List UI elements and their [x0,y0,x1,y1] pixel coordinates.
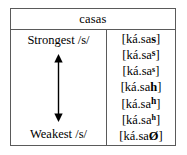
form-coda: s [152,45,156,61]
double-headed-vertical-arrow-icon [11,52,106,124]
form-coda: h [151,110,155,126]
form-coda: h [151,93,156,109]
weakest-label: Weakest /s/ [30,128,87,142]
form-coda: s [152,62,155,78]
form-prefix: [ká.sa [121,79,151,95]
form-suffix: ] [157,79,161,95]
form-suffix: ] [156,112,160,128]
form-suffix: ] [159,128,163,144]
form-prefix: [ká.sa [122,31,152,47]
form-prefix: [ká.sa [122,47,152,63]
phonetic-forms-column: [ká.sas] [ká.sas] [ká.sas] [ká.sah] [ká.… [107,30,175,145]
phonetic-form-row: [ká.sas] [123,63,160,79]
table-title: casas [79,13,106,26]
form-coda: Ø [149,128,159,144]
form-suffix: ] [155,63,159,79]
table-header-row: casas [11,9,175,30]
phonetic-form-row: [ká.saØ] [119,128,162,144]
strongest-label: Strongest /s/ [27,34,89,48]
form-suffix: ] [156,47,160,63]
form-prefix: [ká.sa [122,112,152,128]
form-prefix: [ká.sa [122,96,152,112]
form-prefix: [ká.sa [123,63,153,79]
form-suffix: ] [156,31,160,47]
form-prefix: [ká.sa [119,128,149,144]
form-suffix: ] [156,96,160,112]
lenition-scale-table: casas Strongest /s/ Weakest /s/ [ká.sas]… [10,8,176,146]
table-body-row: Strongest /s/ Weakest /s/ [ká.sas] [ká.s… [11,30,175,145]
strength-scale-column: Strongest /s/ Weakest /s/ [11,30,107,145]
phonetic-form-row: [ká.sah] [122,112,160,128]
